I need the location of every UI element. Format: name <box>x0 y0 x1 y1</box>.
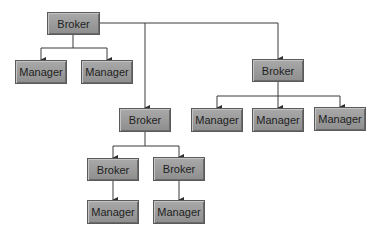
broker-node: Broker <box>252 59 304 82</box>
manager-node: Manager <box>87 200 139 224</box>
manager-node: Manager <box>15 60 67 84</box>
manager-node: Manager <box>191 108 243 132</box>
broker-node: Broker <box>119 108 171 132</box>
manager-node: Manager <box>252 108 304 132</box>
manager-node: Manager <box>153 200 205 224</box>
manager-node: Manager <box>314 107 366 131</box>
broker-node: Broker <box>153 157 205 181</box>
manager-node: Manager <box>81 60 133 84</box>
broker-node: Broker <box>87 158 139 181</box>
broker-node: Broker <box>47 12 100 35</box>
